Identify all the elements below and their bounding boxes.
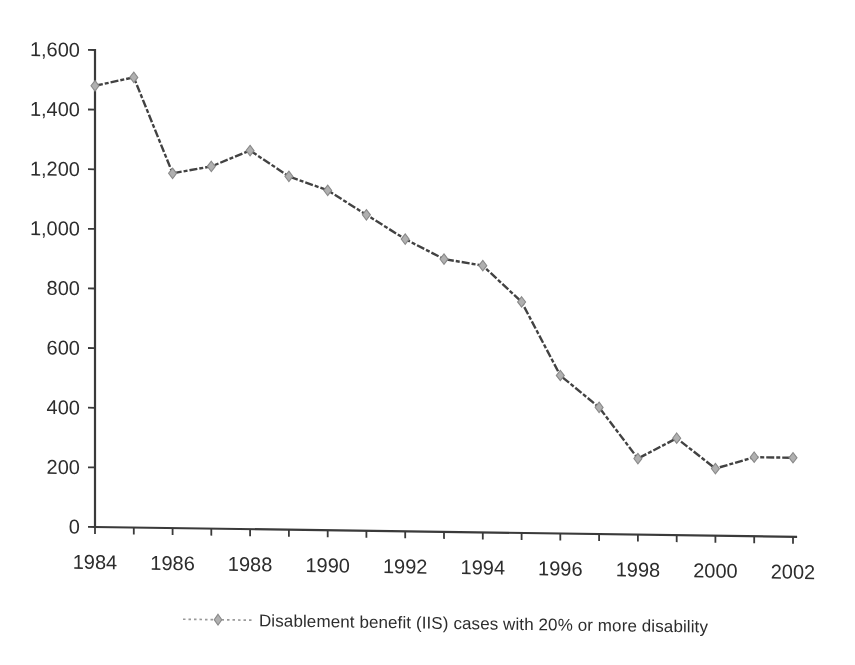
x-axis-tick-label: 1986 bbox=[150, 552, 194, 575]
y-axis-tick-label: 800 bbox=[47, 277, 80, 299]
y-axis-tick-label: 200 bbox=[47, 456, 80, 478]
data-point-marker bbox=[91, 81, 99, 92]
data-point-marker bbox=[362, 210, 370, 221]
data-point-marker bbox=[324, 185, 332, 196]
legend-diamond-icon bbox=[214, 614, 222, 625]
data-point-marker bbox=[130, 72, 138, 83]
y-axis-tick-label: 1,000 bbox=[30, 217, 80, 240]
data-point-marker bbox=[750, 452, 758, 463]
x-axis-line bbox=[95, 527, 796, 537]
data-series bbox=[91, 72, 797, 475]
x-axis-tick-label: 2000 bbox=[693, 559, 737, 582]
y-axis-tick-label: 1,200 bbox=[30, 157, 80, 180]
chart-axes: 02004006008001,0001,2001,4001,6001984198… bbox=[30, 38, 815, 583]
y-axis-tick-label: 1,400 bbox=[30, 98, 80, 121]
x-axis-tick-label: 1996 bbox=[538, 557, 582, 580]
x-axis-tick-label: 2002 bbox=[771, 560, 815, 583]
x-axis-tick-label: 1990 bbox=[305, 554, 349, 577]
data-point-marker bbox=[479, 260, 487, 271]
y-axis-tick-label: 1,600 bbox=[30, 38, 80, 61]
data-point-marker bbox=[401, 234, 409, 245]
y-axis-tick-label: 600 bbox=[47, 336, 80, 358]
series-line bbox=[95, 77, 793, 470]
data-point-marker bbox=[285, 171, 293, 182]
chart-legend: Disablement benefit (IIS) cases with 20%… bbox=[183, 610, 708, 636]
data-point-marker bbox=[246, 145, 254, 156]
line-chart: 02004006008001,0001,2001,4001,6001984198… bbox=[0, 0, 855, 665]
data-point-marker bbox=[440, 254, 448, 265]
chart-plot-area: 02004006008001,0001,2001,4001,6001984198… bbox=[30, 38, 815, 638]
data-point-marker bbox=[789, 452, 797, 463]
x-axis-tick-label: 1988 bbox=[228, 553, 272, 576]
y-axis-tick-label: 0 bbox=[69, 516, 80, 538]
y-axis-tick-label: 400 bbox=[47, 396, 80, 418]
data-point-marker bbox=[207, 161, 215, 172]
legend-label: Disablement benefit (IIS) cases with 20%… bbox=[259, 611, 708, 636]
data-point-marker bbox=[634, 453, 642, 464]
data-point-marker bbox=[169, 168, 177, 179]
x-axis-tick-label: 1998 bbox=[616, 558, 660, 581]
x-axis-tick-label: 1992 bbox=[383, 555, 427, 578]
x-axis-tick-label: 1984 bbox=[73, 551, 117, 574]
x-axis-tick-label: 1994 bbox=[461, 556, 505, 579]
scanned-report-page: 02004006008001,0001,2001,4001,6001984198… bbox=[0, 0, 855, 665]
data-point-marker bbox=[673, 433, 681, 444]
